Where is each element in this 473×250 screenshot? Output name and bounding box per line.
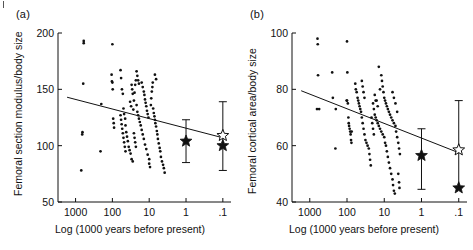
data-point [131, 88, 134, 91]
data-point [355, 91, 358, 94]
data-point [389, 113, 392, 116]
data-point [377, 65, 380, 68]
data-point [393, 192, 396, 195]
data-point [144, 102, 147, 105]
data-point [376, 105, 379, 108]
data-point [346, 71, 349, 74]
data-point [148, 158, 151, 161]
data-point [122, 107, 125, 110]
data-point [347, 122, 350, 125]
data-point [357, 99, 360, 102]
data-point [121, 127, 124, 130]
x-tick-label: .1 [218, 206, 227, 218]
data-point [360, 111, 363, 114]
data-point [390, 116, 393, 119]
axis-spines [292, 33, 467, 202]
data-point [376, 122, 379, 125]
data-point [123, 113, 126, 116]
data-point [133, 99, 136, 102]
x-tick-label: .1 [454, 206, 463, 218]
filled-star-marker [453, 182, 465, 193]
data-point [154, 73, 157, 76]
data-point [162, 163, 165, 166]
data-point [82, 42, 85, 45]
data-point [135, 145, 138, 148]
data-point [362, 127, 365, 130]
y-tick-label: 60 [276, 140, 288, 152]
data-point [146, 109, 149, 112]
y-tick-label: 150 [36, 83, 54, 95]
data-point [383, 136, 386, 139]
data-point [332, 96, 335, 99]
y-tick-label: 50 [42, 196, 54, 208]
data-point [318, 108, 321, 111]
data-point [397, 172, 400, 175]
y-tick-label: 100 [36, 140, 54, 152]
data-point [135, 70, 138, 73]
data-point [359, 108, 362, 111]
data-point [384, 142, 387, 145]
x-tick-label: 1000 [298, 206, 322, 218]
data-point [161, 160, 164, 163]
data-point [331, 71, 334, 74]
data-point [391, 119, 394, 122]
data-point [121, 132, 124, 135]
panel-b-plot: 4060801001000100101.1 [236, 0, 473, 250]
x-tick-label: 1 [183, 206, 189, 218]
data-point [143, 94, 146, 97]
data-point [371, 122, 374, 125]
data-point [358, 102, 361, 105]
data-point [136, 111, 139, 114]
data-point [81, 133, 84, 136]
x-tick-label: 10 [378, 206, 390, 218]
regression-line [301, 91, 459, 153]
data-point [361, 122, 364, 125]
data-point [356, 96, 359, 99]
data-point [160, 156, 163, 159]
scatter-series [316, 37, 402, 195]
data-point [155, 125, 158, 128]
data-point [124, 124, 127, 127]
data-point [392, 184, 395, 187]
data-point [349, 133, 352, 136]
data-point [348, 127, 351, 130]
data-point [395, 130, 398, 133]
data-point [381, 80, 384, 83]
data-point [112, 122, 115, 125]
data-point [135, 104, 138, 107]
data-point [138, 121, 141, 124]
data-point [129, 152, 132, 155]
data-point [121, 88, 124, 91]
x-tick-label: 100 [104, 206, 122, 218]
data-point [134, 141, 137, 144]
data-point [364, 139, 367, 142]
data-point [153, 115, 156, 118]
data-point [347, 116, 350, 119]
data-point [354, 88, 357, 91]
data-point [365, 142, 368, 145]
data-point [384, 99, 387, 102]
data-point [82, 82, 85, 85]
data-point [394, 125, 397, 128]
data-point [139, 124, 142, 127]
data-point [133, 132, 136, 135]
data-point [360, 116, 363, 119]
data-point [159, 150, 162, 153]
data-point [354, 82, 357, 85]
y-tick-label: 80 [276, 83, 288, 95]
data-point [119, 114, 122, 117]
data-point [386, 150, 389, 153]
data-point [388, 111, 391, 114]
data-point [138, 82, 141, 85]
data-point [373, 108, 376, 111]
data-point [137, 79, 140, 82]
data-point [386, 105, 389, 108]
data-point [155, 130, 158, 133]
data-point [130, 83, 133, 86]
data-point [387, 156, 390, 159]
data-point [146, 153, 149, 156]
data-point [387, 108, 390, 111]
data-point [130, 105, 133, 108]
data-point [350, 130, 353, 133]
data-point [316, 37, 319, 40]
